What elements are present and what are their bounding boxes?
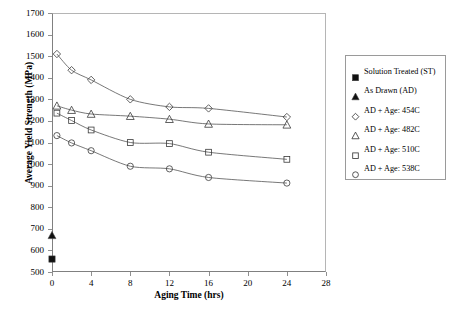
x-axis-tick — [209, 272, 210, 276]
y-axis-tick-label: 1100 — [10, 138, 44, 147]
y-axis-tick-label: 1400 — [10, 73, 44, 82]
x-axis-tick — [130, 272, 131, 276]
chart-container: Average Yield Strength (MPa) Aging Time … — [0, 0, 450, 315]
y-axis-tick — [48, 99, 52, 100]
y-axis-tick-label: 800 — [10, 203, 44, 212]
data-point — [48, 231, 56, 238]
filled-square-icon — [351, 68, 360, 77]
x-axis-tick-label: 8 — [115, 279, 145, 288]
y-axis-tick — [48, 229, 52, 230]
y-axis-tick-label: 1600 — [10, 30, 44, 39]
y-axis-tick — [48, 250, 52, 251]
filled-triangle-icon — [351, 87, 360, 96]
x-axis-tick-label: 24 — [272, 279, 302, 288]
legend-item-label: As Drawn (AD) — [364, 87, 417, 95]
open-diamond-icon — [351, 107, 360, 116]
legend-item[interactable]: AD + Age: 538C — [351, 161, 420, 179]
legend-item-label: AD + Age: 510C — [364, 146, 420, 154]
y-axis-tick — [48, 78, 52, 79]
y-axis-tick-label: 1000 — [10, 160, 44, 169]
y-axis-tick — [48, 56, 52, 57]
open-triangle-icon — [351, 126, 360, 135]
legend-item[interactable]: AD + Age: 510C — [351, 141, 420, 159]
y-axis-tick-label: 700 — [10, 224, 44, 233]
chart-legend: Solution Treated (ST)As Drawn (AD)AD + A… — [345, 55, 446, 180]
x-axis-tick — [169, 272, 170, 276]
data-point — [53, 102, 61, 109]
x-axis-tick-label: 0 — [37, 279, 67, 288]
x-axis-tick-label: 12 — [154, 279, 184, 288]
x-axis-tick-label: 16 — [194, 279, 224, 288]
x-axis-tick-label: 20 — [233, 279, 263, 288]
y-axis-tick — [48, 207, 52, 208]
legend-item[interactable]: Solution Treated (ST) — [351, 63, 435, 81]
y-axis-tick-label: 900 — [10, 181, 44, 190]
x-axis-tick-label: 4 — [76, 279, 106, 288]
y-axis-tick-label: 1300 — [10, 95, 44, 104]
y-axis-tick — [48, 186, 52, 187]
legend-item-label: AD + Age: 538C — [364, 165, 420, 173]
legend-item[interactable]: AD + Age: 454C — [351, 102, 420, 120]
x-axis-tick — [52, 272, 53, 276]
legend-item-label: Solution Treated (ST) — [364, 68, 435, 76]
trendline — [57, 136, 287, 183]
y-axis-tick — [48, 121, 52, 122]
x-axis-tick — [91, 272, 92, 276]
y-axis-tick-label: 1200 — [10, 116, 44, 125]
y-axis-tick-label: 1700 — [10, 9, 44, 18]
legend-item-label: AD + Age: 482C — [364, 126, 420, 134]
y-axis-tick — [48, 164, 52, 165]
y-axis-tick — [48, 143, 52, 144]
y-axis-tick — [48, 13, 52, 14]
open-circle-icon — [351, 165, 360, 174]
x-axis-title: Aging Time (hrs) — [52, 290, 326, 300]
x-axis-tick — [248, 272, 249, 276]
x-axis-tick — [287, 272, 288, 276]
y-axis-tick — [48, 35, 52, 36]
legend-item[interactable]: As Drawn (AD) — [351, 83, 417, 101]
open-square-icon — [351, 146, 360, 155]
legend-item-label: AD + Age: 454C — [364, 107, 420, 115]
legend-item[interactable]: AD + Age: 482C — [351, 122, 420, 140]
x-axis-tick-label: 28 — [311, 279, 341, 288]
x-axis-tick — [326, 272, 327, 276]
y-axis-tick-label: 600 — [10, 246, 44, 255]
y-axis-tick-label: 500 — [10, 268, 44, 277]
y-axis-tick-label: 1500 — [10, 52, 44, 61]
data-point — [49, 256, 55, 262]
